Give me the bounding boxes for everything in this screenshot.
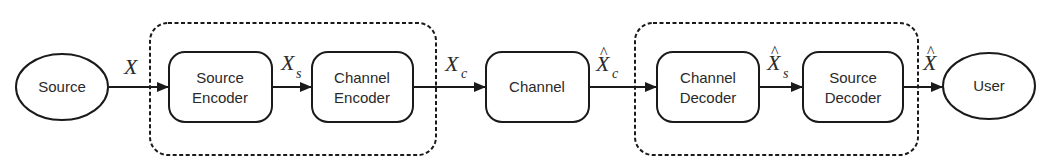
edge-label-x-hat-c: ^ X c <box>595 44 619 81</box>
edge-label-x-hat: ^ X <box>922 43 938 75</box>
node-channel-encoder-label-line1: Channel <box>334 69 390 86</box>
edge-label-x-c-base: X <box>444 51 460 76</box>
node-source: Source <box>16 54 108 120</box>
edge-label-x: X <box>123 54 139 79</box>
node-source-encoder: Source Encoder <box>169 52 272 122</box>
node-channel-decoder: Channel Decoder <box>657 52 759 122</box>
edge-label-x-base: X <box>123 54 139 79</box>
node-source-decoder-label-line1: Source <box>829 69 877 86</box>
edge-label-x-hat-c-sub: c <box>612 66 619 81</box>
node-source-encoder-label-line2: Encoder <box>192 89 248 106</box>
node-source-decoder: Source Decoder <box>803 52 903 122</box>
edge-label-x-s-base: X <box>280 50 296 75</box>
node-user: User <box>943 53 1035 119</box>
edge-label-x-c: X c <box>444 51 468 81</box>
node-user-label: User <box>973 77 1005 94</box>
block-diagram: Source Source Encoder Channel Encoder Ch… <box>0 0 1049 168</box>
edge-label-x-hat-s: ^ X s <box>766 43 789 81</box>
node-channel-decoder-label-line1: Channel <box>680 69 736 86</box>
node-source-label: Source <box>38 78 86 95</box>
node-channel-encoder: Channel Encoder <box>312 52 413 122</box>
edge-label-x-hat-s-base: X <box>766 50 782 75</box>
node-channel: Channel <box>486 52 589 122</box>
node-source-encoder-label-line1: Source <box>196 69 244 86</box>
node-source-decoder-label-line2: Decoder <box>825 89 882 106</box>
edge-label-x-s: X s <box>280 50 302 81</box>
edge-label-x-hat-base: X <box>922 50 938 75</box>
node-channel-label: Channel <box>509 78 565 95</box>
edge-label-x-hat-c-base: X <box>595 51 611 76</box>
node-channel-encoder-label-line2: Encoder <box>334 89 390 106</box>
edge-label-x-hat-s-sub: s <box>783 66 789 81</box>
edge-label-x-s-sub: s <box>296 66 302 81</box>
node-channel-decoder-label-line2: Decoder <box>680 89 737 106</box>
edge-label-x-c-sub: c <box>461 66 468 81</box>
